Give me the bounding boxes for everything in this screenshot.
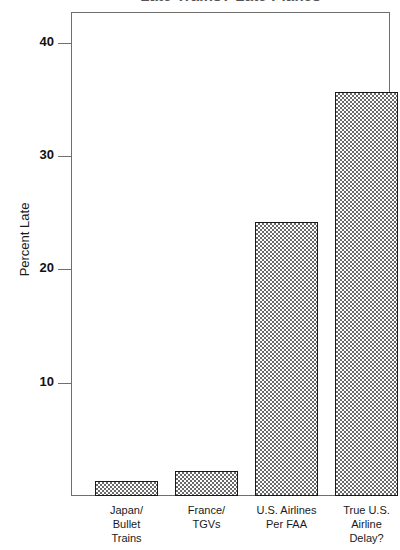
x-axis-category-label-line: Japan/	[82, 503, 172, 517]
bar	[175, 471, 238, 496]
y-axis-tick: 20	[0, 269, 71, 270]
x-axis-category-label-line: U.S. Airlines	[242, 503, 332, 517]
x-axis-category-label: France/TGVs	[162, 503, 252, 531]
bar	[255, 222, 318, 496]
y-axis-tick-label: 20	[40, 260, 54, 275]
chart-title: Late Trains? Late Planes	[71, 0, 390, 3]
x-axis-category-label-line: Per FAA	[242, 517, 332, 531]
y-axis-tick-mark	[58, 43, 71, 44]
y-axis-tick-mark	[58, 383, 71, 384]
y-axis-tick-label: 40	[40, 34, 54, 49]
x-axis-category-label-line: Delay?	[322, 531, 400, 545]
y-axis-tick-label: 30	[40, 147, 54, 162]
bar-chart: Late Trains? Late Planes Percent Late 40…	[0, 0, 400, 550]
x-axis-category-label-line: France/	[162, 503, 252, 517]
y-axis-tick: 40	[0, 43, 71, 44]
y-axis-label: Percent Late	[17, 180, 32, 300]
y-axis-tick-mark	[58, 269, 71, 270]
bar	[95, 481, 158, 496]
x-axis-category-label: U.S. AirlinesPer FAA	[242, 503, 332, 531]
bar	[335, 92, 398, 496]
y-axis-tick-mark	[58, 156, 71, 157]
x-axis-category-label-line: Bullet	[82, 517, 172, 531]
x-axis-category-label-line: Trains	[82, 531, 172, 545]
x-axis-category-label: Japan/BulletTrains	[82, 503, 172, 545]
x-axis-category-label-line: Airline	[322, 517, 400, 531]
y-axis-tick: 10	[0, 383, 71, 384]
y-axis-tick: 30	[0, 156, 71, 157]
x-axis-category-label: True U.S.AirlineDelay?	[322, 503, 400, 545]
y-axis-tick-label: 10	[40, 374, 54, 389]
x-axis-category-label-line: True U.S.	[322, 503, 400, 517]
x-axis-category-label-line: TGVs	[162, 517, 252, 531]
